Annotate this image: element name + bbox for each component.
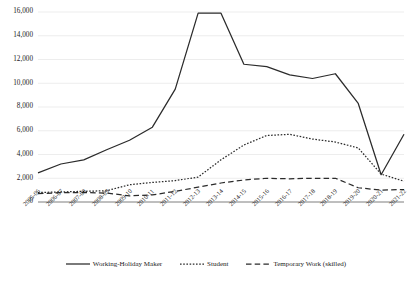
legend-item[interactable]: Working-Holiday Maker [66,260,162,268]
legend-label: Temporary Work (skilled) [273,260,346,268]
y-tick-label: 4,000 [17,151,33,158]
y-tick-label: 14,000 [13,32,33,39]
y-tick-label: 8,000 [17,103,33,110]
y-tick-label: 10,000 [13,80,33,87]
legend-item[interactable]: Student [180,260,228,268]
line-chart: 02,0004,0006,0008,00010,00012,00014,0001… [0,0,412,284]
x-axis: 2005-062006-072007-082008-092009-102010-… [38,203,404,249]
y-tick-label: 6,000 [17,127,33,134]
y-axis: 02,0004,0006,0008,00010,00012,00014,0001… [0,0,36,202]
series-layer [38,12,404,202]
legend-swatch-dotted [180,260,204,268]
legend-label: Student [207,260,228,268]
legend-swatch-solid [66,260,90,268]
y-tick-label: 16,000 [13,8,33,15]
series-line-working-holiday-maker [38,13,404,175]
legend-item[interactable]: Temporary Work (skilled) [246,260,346,268]
y-tick-label: 2,000 [17,175,33,182]
plot-area [38,12,404,202]
chart-legend: Working-Holiday MakerStudentTemporary Wo… [0,256,412,272]
legend-swatch-dashed [246,260,270,268]
legend-label: Working-Holiday Maker [93,260,162,268]
y-tick-label: 12,000 [13,56,33,63]
